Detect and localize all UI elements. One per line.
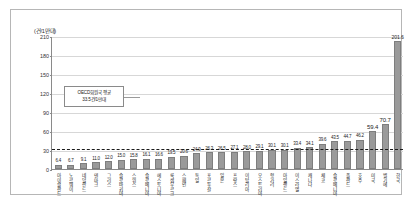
x-axis-category-label: 이스라엘: [294, 173, 299, 207]
bar: [206, 152, 213, 169]
x-axis-category: 벨기에: [378, 173, 391, 207]
x-axis-category: 슬로베니아: [139, 173, 152, 207]
bar-value-label: 15.8: [130, 153, 138, 158]
x-axis-category: 아이슬란드: [51, 173, 64, 207]
bar-value-label: 12.0: [105, 155, 113, 160]
bar: [306, 147, 313, 169]
x-axis-category-label: 일본: [218, 173, 223, 207]
x-axis-category-label: 슬로바키아: [118, 173, 123, 207]
x-axis-category-label: 오스트리아: [256, 173, 261, 207]
x-axis-category: 네덜란드: [76, 173, 89, 207]
bar: [356, 140, 363, 169]
y-axis-tick-label: 180: [40, 53, 49, 59]
y-axis-tick-label: 150: [40, 72, 49, 78]
bar: [118, 160, 125, 170]
x-axis-category: 체코: [315, 173, 328, 207]
x-axis-category-label: 호주: [357, 173, 362, 207]
bar-value-label: 39.6: [318, 137, 326, 142]
bar: [319, 144, 326, 169]
bar-value-label: 16.1: [142, 152, 150, 157]
bar-value-label: 6.4: [56, 158, 62, 163]
chart-figure: (건/1만대) 0306090120150180210 6.46.79.111.…: [0, 0, 413, 214]
x-axis-category: 캐나다: [302, 173, 315, 207]
y-axis-tick-label: 0: [46, 167, 49, 173]
y-axis-tick-mark: [50, 151, 52, 152]
bar: [369, 131, 376, 169]
bar: [168, 157, 175, 169]
bar: [92, 162, 99, 169]
x-axis-category: 덴마크: [89, 173, 102, 207]
bar-value-label: 43.5: [331, 135, 339, 140]
y-axis-tick-mark: [50, 56, 52, 57]
bar: [394, 41, 401, 169]
bar: [180, 156, 187, 169]
x-axis-category-label: 독일: [193, 173, 198, 207]
bar-value-label: 11.0: [92, 156, 99, 161]
bar: [193, 153, 200, 169]
x-axis-category: 에스토니아: [152, 173, 165, 207]
y-axis-tick-label: 120: [40, 91, 49, 97]
x-axis-category-label: 슬로베니아: [143, 173, 148, 207]
x-axis-category: 슬로바키아: [114, 173, 127, 207]
plot-area: 0306090120150180210 6.46.79.111.012.015.…: [51, 37, 403, 170]
bar: [331, 141, 338, 169]
x-axis-category-label: 포르투갈: [206, 173, 211, 207]
bar-value-label: 46.2: [356, 133, 364, 138]
bar: [231, 152, 238, 169]
bar: [143, 159, 150, 169]
x-axis-category-label: 에스토니아: [156, 173, 161, 207]
bar-value-label: 44.7: [344, 134, 352, 139]
bar-value-label: 34.1: [306, 141, 314, 146]
bar-value-label: 70.7: [379, 117, 390, 123]
bar-value-label: 33.4: [293, 141, 301, 146]
x-axis-category-label: 헝가리: [269, 173, 274, 207]
x-axis-category: 미국: [365, 173, 378, 207]
x-axis-category: 호주: [353, 173, 366, 207]
bar: [155, 159, 162, 170]
x-axis-category: 이스라엘: [290, 173, 303, 207]
x-axis-category-label: 미국: [369, 173, 374, 207]
bar: [294, 148, 301, 169]
x-axis-category: 노르웨이: [64, 173, 77, 207]
x-axis-category-label: 슬로베니아: [332, 173, 337, 207]
y-axis-tick-label: 60: [43, 129, 49, 135]
x-axis-category-label: 체코: [319, 173, 324, 207]
bar: [281, 150, 288, 169]
x-axis-category: 슬로베니아: [328, 173, 341, 207]
x-axis-category-label: 그리스: [105, 173, 110, 207]
x-axis-category: 일본: [214, 173, 227, 207]
x-axis-category-label: 네덜란드: [80, 173, 85, 207]
y-axis-tick-mark: [50, 37, 52, 38]
x-axis-category: 오스트리아: [252, 173, 265, 207]
x-axis-category-label: 캐나다: [306, 173, 311, 207]
y-axis-tick-mark: [50, 132, 52, 133]
x-axis-category: 이탈리아: [240, 173, 253, 207]
bar-value-label: 59.4: [367, 124, 378, 130]
x-axis-category-label: 스페인: [181, 173, 186, 207]
x-axis-category: 룩셈부르크: [164, 173, 177, 207]
oecd-average-line: [52, 149, 403, 150]
y-axis-tick-mark: [50, 113, 52, 114]
bar-value-label: 30.1: [281, 143, 289, 148]
y-axis-tick-mark: [50, 170, 52, 171]
x-axis-category: 아일랜드: [277, 173, 290, 207]
x-axis-category-label: 덴마크: [93, 173, 98, 207]
x-axis-category-label: 벨기에: [382, 173, 387, 207]
y-axis-tick-mark: [50, 75, 52, 76]
y-axis-tick-label: 30: [43, 148, 49, 154]
bar-value-label: 15.0: [117, 153, 125, 158]
chart-frame: (건/1만대) 0306090120150180210 6.46.79.111.…: [10, 9, 402, 195]
bar: [130, 159, 137, 169]
x-axis-category-label: 폴란드: [344, 173, 349, 207]
x-axis-category-label: 룩셈부르크: [168, 173, 173, 207]
bar-value-label: 20.6: [180, 149, 188, 154]
bar-value-label: 9.1: [81, 157, 87, 162]
x-axis-category: 프랑스: [227, 173, 240, 207]
x-axis-category: 독일: [189, 173, 202, 207]
x-axis-category-label: 스위스: [130, 173, 135, 207]
bar-value-label: 30.1: [268, 143, 276, 148]
x-axis-category: 포르투갈: [202, 173, 215, 207]
x-axis-category-label: 노르웨이: [68, 173, 73, 207]
x-axis-category-label: 이탈리아: [244, 173, 249, 207]
bar: [382, 124, 389, 169]
